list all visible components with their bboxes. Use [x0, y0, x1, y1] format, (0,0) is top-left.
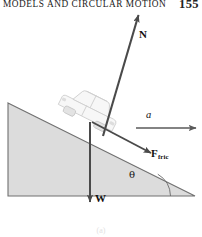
incline-angle-label: θ	[129, 170, 135, 180]
friction-force-arrow	[92, 122, 151, 153]
friction-force-label-subscript: fric	[158, 153, 169, 160]
normal-force-label: N	[139, 29, 147, 40]
acceleration-label: a	[146, 110, 151, 121]
friction-force-label: Ffric	[151, 148, 168, 159]
figure-part-label: (a)	[0, 226, 202, 235]
weight-label: W	[95, 193, 106, 204]
normal-force-arrow	[103, 15, 139, 136]
friction-force-label-main: F	[151, 147, 158, 159]
figure-page: MODELS AND CIRCULAR MOTION 155	[0, 0, 202, 237]
